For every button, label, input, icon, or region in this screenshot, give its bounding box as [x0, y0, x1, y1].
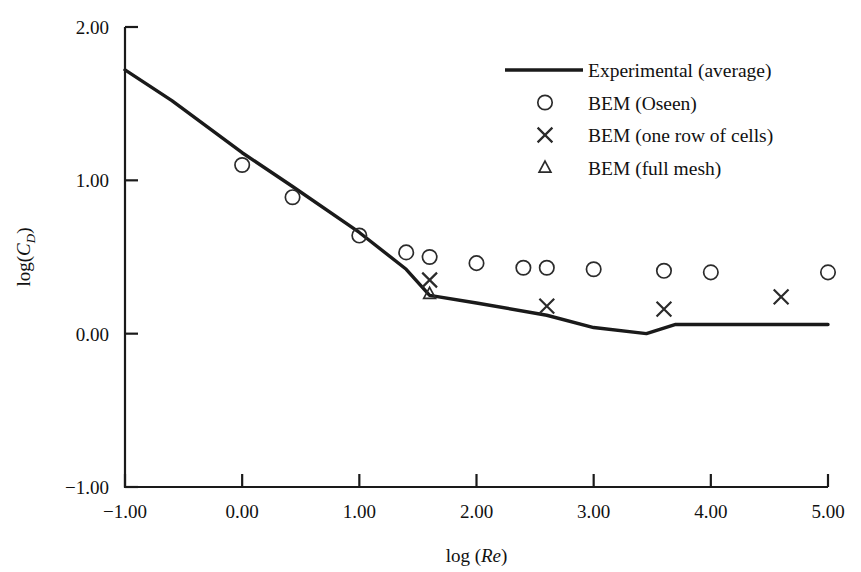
data-point-circle — [540, 261, 554, 275]
x-tick-label: 3.00 — [577, 501, 610, 522]
x-tick-label: 4.00 — [694, 501, 727, 522]
legend-label: Experimental (average) — [588, 60, 772, 82]
data-point-cross — [539, 299, 554, 314]
data-point-circle — [657, 264, 671, 278]
data-point-circle — [399, 245, 413, 259]
x-tick-label: 1.00 — [343, 501, 376, 522]
experimental-line — [125, 70, 828, 334]
axis-titles: log (Re)log(CD) — [13, 227, 507, 567]
data-point-circle — [821, 265, 835, 279]
chart-legend: Experimental (average)BEM (Oseen)BEM (on… — [505, 60, 773, 180]
legend-label: BEM (full mesh) — [588, 158, 721, 180]
chart-canvas: −1.000.001.002.003.004.005.00−1.000.001.… — [0, 0, 861, 572]
data-point-circle — [235, 158, 249, 172]
y-tick-label: 1.00 — [76, 170, 109, 191]
data-series — [125, 70, 835, 334]
series-1 — [235, 158, 835, 280]
data-point-circle — [704, 265, 718, 279]
data-point-circle — [586, 262, 600, 276]
data-point-circle — [516, 261, 530, 275]
data-point-cross — [774, 289, 789, 304]
tick-labels: −1.000.001.002.003.004.005.00−1.000.001.… — [65, 17, 845, 522]
data-point-circle — [469, 256, 483, 270]
data-point-circle — [422, 250, 436, 264]
svg-text:log(CD): log(CD) — [13, 227, 38, 286]
data-point-cross — [657, 302, 672, 317]
x-tick-label: −1.00 — [103, 501, 147, 522]
y-tick-label: 2.00 — [76, 17, 109, 38]
legend-entry-0: Experimental (average) — [505, 60, 772, 82]
legend-label: BEM (one row of cells) — [588, 125, 773, 147]
x-tick-label: 5.00 — [811, 501, 844, 522]
legend-label: BEM (Oseen) — [588, 93, 697, 115]
x-tick-label: 2.00 — [460, 501, 493, 522]
legend-cross-swatch — [538, 128, 553, 143]
data-point-cross — [422, 273, 437, 288]
y-tick-label: −1.00 — [65, 477, 109, 498]
legend-entry-2: BEM (one row of cells) — [538, 125, 774, 147]
y-axis-title: log(CD) — [13, 227, 38, 286]
legend-circle-swatch — [538, 95, 552, 109]
legend-triangle-swatch — [539, 161, 551, 172]
y-tick-label: 0.00 — [76, 324, 109, 345]
chart-figure: −1.000.001.002.003.004.005.00−1.000.001.… — [0, 0, 861, 572]
series-0 — [125, 70, 828, 334]
legend-entry-1: BEM (Oseen) — [538, 93, 697, 115]
x-axis-title: log (Re) — [446, 545, 508, 567]
series-2 — [422, 273, 788, 317]
axis-lines — [125, 27, 828, 487]
axes — [125, 27, 828, 487]
data-point-circle — [285, 190, 299, 204]
x-tick-label: 0.00 — [226, 501, 259, 522]
legend-entry-3: BEM (full mesh) — [539, 158, 721, 180]
